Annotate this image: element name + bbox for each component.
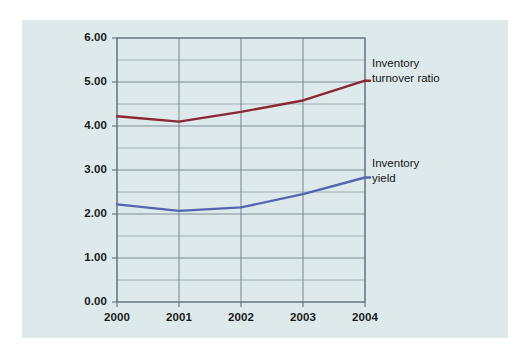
series-lines (117, 81, 370, 211)
chart-figure: 0.001.002.003.004.005.006.00 20002001200… (0, 0, 528, 352)
x-tick-label: 2000 (92, 311, 142, 323)
series-label-turnover-ratio-line2: turnover ratio (372, 71, 440, 86)
y-tick-label: 6.00 (63, 31, 107, 43)
series-label-turnover-ratio: Inventory turnover ratio (372, 56, 440, 85)
x-tick-label: 2003 (278, 311, 328, 323)
y-tick-label: 2.00 (63, 207, 107, 219)
y-tick-label: 5.00 (63, 75, 107, 87)
y-tick-label: 1.00 (63, 251, 107, 263)
x-tick-marks (117, 302, 365, 307)
x-tick-label: 2001 (154, 311, 204, 323)
series-label-turnover-ratio-line1: Inventory (372, 56, 440, 71)
y-tick-label: 3.00 (63, 163, 107, 175)
y-tick-label: 0.00 (63, 295, 107, 307)
y-tick-label: 4.00 (63, 119, 107, 131)
x-tick-label: 2004 (340, 311, 390, 323)
series-label-inventory-yield: Inventory yield (372, 156, 419, 185)
series-label-inventory-yield-line2: yield (372, 171, 419, 186)
x-tick-label: 2002 (216, 311, 266, 323)
series-label-inventory-yield-line1: Inventory (372, 156, 419, 171)
y-tick-marks (112, 38, 117, 302)
